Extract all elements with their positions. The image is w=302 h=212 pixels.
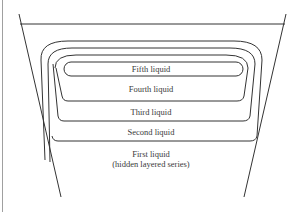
fifth-liquid-label: Fifth liquid bbox=[0, 64, 302, 74]
first-liquid-sublabel: (hidden layered series) bbox=[0, 159, 302, 169]
layered-liquids-diagram bbox=[0, 0, 302, 212]
third-liquid-label: Third liquid bbox=[0, 107, 302, 117]
first-liquid-label: First liquid bbox=[0, 149, 302, 159]
second-liquid-label: Second liquid bbox=[0, 127, 302, 137]
fourth-liquid-label: Fourth liquid bbox=[0, 84, 302, 94]
